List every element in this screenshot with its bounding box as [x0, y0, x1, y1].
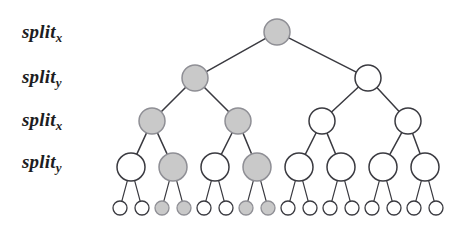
tree-node-empty	[285, 153, 313, 181]
split-label-subscript: x	[56, 118, 63, 133]
tree-node-filled	[261, 201, 275, 215]
split-label-text: split	[22, 151, 56, 172]
tree-edge	[206, 180, 212, 203]
split-x-level-1: splitx	[22, 22, 62, 41]
tree-node-empty	[365, 201, 379, 215]
tree-edge	[386, 180, 392, 203]
tree-edge	[164, 180, 170, 203]
tree-edge	[160, 86, 186, 112]
tree-node-empty	[219, 201, 233, 215]
tree-edge	[218, 180, 224, 203]
tree-edge	[290, 180, 296, 203]
tree-edge	[157, 132, 168, 155]
tree-edge	[136, 132, 147, 155]
tree-node-empty	[369, 153, 397, 181]
tree-node-empty	[345, 201, 359, 215]
split-label-text: split	[22, 109, 56, 130]
tree-node-filled	[177, 201, 191, 215]
tree-edge	[288, 37, 358, 72]
tree-node-filled	[243, 153, 271, 181]
split-label-text: split	[22, 21, 56, 42]
tree-node-empty	[395, 108, 421, 134]
tree-edge	[376, 87, 400, 112]
tree-node-empty	[117, 153, 145, 181]
tree-edge	[122, 180, 128, 203]
tree-node-filled	[182, 65, 208, 91]
tree-edge	[428, 180, 434, 203]
tree-edge	[374, 180, 380, 203]
tree-node-filled	[155, 201, 169, 215]
tree-edge	[221, 132, 233, 156]
tree-edge	[331, 86, 359, 113]
tree-node-empty	[411, 153, 439, 181]
tree-node-empty	[387, 201, 401, 215]
tree-node-empty	[303, 201, 317, 215]
tree-node-empty	[407, 201, 421, 215]
tree-edge	[134, 180, 140, 203]
tree-node-filled	[139, 108, 165, 134]
tree-node-empty	[197, 201, 211, 215]
split-y-level-4: splity	[22, 152, 62, 171]
tree-edge	[260, 180, 266, 203]
tree-edge	[205, 38, 266, 72]
split-label-text: split	[22, 66, 56, 87]
tree-node-filled	[239, 201, 253, 215]
tree-node-empty	[113, 201, 127, 215]
tree-node-filled	[225, 108, 251, 134]
tree-edge	[416, 180, 422, 203]
tree-node-filled	[264, 19, 290, 45]
tree-edge	[176, 180, 182, 203]
tree-edge	[302, 180, 308, 203]
split-label-subscript: x	[56, 30, 63, 45]
tree-edge	[327, 132, 336, 155]
tree-edge	[389, 132, 402, 156]
tree-edge	[305, 132, 317, 156]
tree-edge	[412, 132, 420, 155]
figure-canvas: splitxsplitysplitxsplity	[0, 0, 472, 230]
tree-node-filled	[159, 153, 187, 181]
node-layer	[113, 19, 443, 215]
tree-node-empty	[201, 153, 229, 181]
tree-edge	[344, 180, 350, 203]
tree-node-empty	[327, 153, 355, 181]
tree-node-empty	[355, 65, 381, 91]
tree-node-empty	[135, 201, 149, 215]
tree-node-empty	[323, 201, 337, 215]
tree-node-empty	[281, 201, 295, 215]
split-y-level-2: splity	[22, 67, 62, 86]
tree-edge	[332, 180, 338, 203]
tree-diagram	[0, 0, 472, 230]
tree-node-empty	[429, 201, 443, 215]
tree-edge	[203, 86, 229, 112]
split-label-subscript: y	[56, 75, 62, 90]
split-label-subscript: y	[56, 160, 62, 175]
tree-edge	[248, 180, 254, 203]
split-x-level-3: splitx	[22, 110, 62, 129]
tree-node-empty	[309, 108, 335, 134]
tree-edge	[243, 132, 252, 155]
